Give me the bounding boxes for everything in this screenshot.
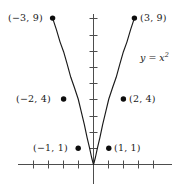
parabola-figure: (−3, 9) (3, 9) (−2, 4) (2, 4) (−1, 1) (1… — [0, 0, 185, 192]
point-marker — [50, 15, 55, 20]
point-marker — [61, 96, 66, 101]
equation-base: y = x — [140, 52, 165, 63]
equation-exponent: 2 — [165, 51, 169, 59]
point-label-neg2-4: (−2, 4) — [16, 94, 51, 104]
point-marker — [106, 146, 111, 151]
point-label-3-9: (3, 9) — [140, 13, 167, 23]
point-marker — [132, 15, 137, 20]
point-label-neg1-1: (−1, 1) — [33, 143, 68, 153]
equation-annotation: y = x2 — [140, 52, 169, 63]
point-marker — [76, 146, 81, 151]
point-marker — [121, 96, 126, 101]
point-label-2-4: (2, 4) — [129, 94, 156, 104]
point-label-1-1: (1, 1) — [114, 143, 141, 153]
point-label-neg3-9: (−3, 9) — [8, 13, 43, 23]
